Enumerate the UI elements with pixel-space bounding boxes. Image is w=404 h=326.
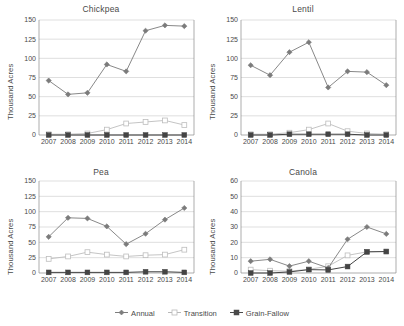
svg-text:50: 50 [28, 239, 36, 246]
svg-text:60: 60 [230, 177, 238, 184]
plot-area-lentil: 0255075100125150200720082009201020112012… [222, 16, 400, 151]
svg-text:2011: 2011 [119, 276, 134, 283]
svg-text:2012: 2012 [138, 138, 154, 145]
plot-area-canola: 0102030405060200720082009201020112012201… [222, 177, 400, 289]
line-chart-pea: 0255075100125150200720082009201020112012… [20, 177, 198, 289]
svg-text:2010: 2010 [99, 276, 115, 283]
chart-title-canola: Canola [202, 167, 404, 177]
svg-text:2010: 2010 [301, 138, 317, 145]
svg-text:50: 50 [28, 93, 36, 100]
legend-item-grain-fallow[interactable]: Grain-Fallow [230, 308, 289, 319]
svg-text:25: 25 [28, 254, 36, 261]
svg-text:25: 25 [28, 112, 36, 119]
svg-text:2013: 2013 [359, 276, 375, 283]
y-axis-label-pea: Thousand Acres [6, 189, 15, 275]
line-chart-lentil: 0255075100125150200720082009201020112012… [222, 16, 400, 151]
svg-text:2007: 2007 [243, 276, 259, 283]
panel-chickpea: Chickpea Thousand Acres 0255075100125150… [0, 0, 202, 163]
svg-text:75: 75 [230, 74, 238, 81]
svg-text:0: 0 [32, 131, 36, 138]
svg-text:75: 75 [28, 223, 36, 230]
svg-text:75: 75 [28, 74, 36, 81]
panel-pea: Pea Thousand Acres 025507510012515020072… [0, 163, 202, 300]
legend-label: Transition [184, 309, 217, 318]
svg-text:2008: 2008 [262, 138, 278, 145]
svg-text:2007: 2007 [41, 138, 57, 145]
svg-text:2013: 2013 [157, 138, 173, 145]
svg-text:150: 150 [24, 16, 36, 23]
svg-text:150: 150 [226, 16, 238, 23]
legend-marker-icon [230, 308, 243, 319]
svg-text:2010: 2010 [301, 276, 317, 283]
svg-text:2012: 2012 [340, 138, 356, 145]
legend-label: Annual [131, 309, 155, 318]
svg-text:2014: 2014 [379, 276, 395, 283]
y-axis-label-chickpea: Thousand Acres [6, 34, 15, 120]
chart-title-pea: Pea [0, 167, 202, 177]
plot-area-pea: 0255075100125150200720082009201020112012… [20, 177, 198, 289]
svg-text:10: 10 [230, 254, 238, 261]
svg-text:125: 125 [24, 193, 36, 200]
svg-text:0: 0 [234, 269, 238, 276]
legend-marker-icon [115, 308, 128, 319]
y-axis-label-canola: Thousand Acres [208, 189, 217, 275]
svg-text:40: 40 [230, 208, 238, 215]
line-chart-chickpea: 0255075100125150200720082009201020112012… [20, 16, 198, 151]
svg-text:2011: 2011 [321, 138, 336, 145]
svg-text:2009: 2009 [282, 138, 298, 145]
svg-text:2013: 2013 [157, 276, 173, 283]
svg-text:2012: 2012 [340, 276, 356, 283]
svg-text:2007: 2007 [41, 276, 57, 283]
panel-lentil: Lentil Thousand Acres 025507510012515020… [202, 0, 404, 163]
svg-text:2009: 2009 [80, 138, 96, 145]
svg-text:100: 100 [226, 55, 238, 62]
legend-item-transition[interactable]: Transition [168, 308, 217, 319]
legend-marker-icon [168, 308, 181, 319]
svg-text:2007: 2007 [243, 138, 259, 145]
svg-text:2012: 2012 [138, 276, 154, 283]
svg-text:50: 50 [230, 193, 238, 200]
y-axis-label-lentil: Thousand Acres [208, 34, 217, 120]
svg-text:100: 100 [24, 55, 36, 62]
svg-text:30: 30 [230, 223, 238, 230]
chart-legend: AnnualTransitionGrain-Fallow [0, 300, 404, 326]
svg-text:2013: 2013 [359, 138, 375, 145]
svg-text:125: 125 [24, 36, 36, 43]
chart-grid: Chickpea Thousand Acres 0255075100125150… [0, 0, 404, 300]
svg-text:50: 50 [230, 93, 238, 100]
svg-text:2014: 2014 [177, 138, 193, 145]
svg-text:2008: 2008 [60, 276, 76, 283]
svg-text:0: 0 [32, 269, 36, 276]
svg-text:2014: 2014 [177, 276, 193, 283]
legend-label: Grain-Fallow [246, 309, 289, 318]
panel-canola: Canola Thousand Acres 010203040506020072… [202, 163, 404, 300]
plot-area-chickpea: 0255075100125150200720082009201020112012… [20, 16, 198, 151]
svg-text:0: 0 [234, 131, 238, 138]
svg-text:2008: 2008 [262, 276, 278, 283]
svg-text:125: 125 [226, 36, 238, 43]
svg-text:2010: 2010 [99, 138, 115, 145]
chart-title-chickpea: Chickpea [0, 4, 202, 14]
chart-title-lentil: Lentil [202, 4, 404, 14]
svg-text:2009: 2009 [80, 276, 96, 283]
svg-text:25: 25 [230, 112, 238, 119]
svg-text:2014: 2014 [379, 138, 395, 145]
svg-text:20: 20 [230, 239, 238, 246]
svg-text:2011: 2011 [119, 138, 134, 145]
svg-text:100: 100 [24, 208, 36, 215]
legend-item-annual[interactable]: Annual [115, 308, 155, 319]
line-chart-canola: 0102030405060200720082009201020112012201… [222, 177, 400, 289]
svg-text:2011: 2011 [321, 276, 336, 283]
svg-text:150: 150 [24, 177, 36, 184]
svg-text:2009: 2009 [282, 276, 298, 283]
svg-text:2008: 2008 [60, 138, 76, 145]
